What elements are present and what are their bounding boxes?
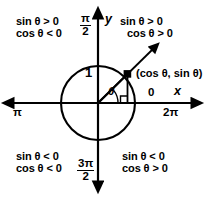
three-pi-over-2-numerator: 3π [77, 158, 94, 171]
quadrant-2-cos: cos θ < 0 [16, 28, 62, 40]
quadrant-4-signs: sin θ < 0 cos θ > 0 [122, 151, 168, 174]
point-marker [124, 70, 132, 78]
pi-over-2-numerator: π [80, 13, 91, 26]
quadrant-1-sin: sin θ > 0 [120, 16, 173, 28]
quadrant-3-signs: sin θ < 0 cos θ < 0 [16, 151, 62, 174]
x-axis-positive-value: 2π [163, 106, 178, 118]
radius-length-label: 1 [85, 66, 92, 80]
quadrant-2-sin: sin θ > 0 [16, 16, 62, 28]
x-axis-label: x [174, 85, 181, 98]
x-axis-origin-value: 0 [148, 86, 154, 98]
three-pi-over-2-denominator: 2 [77, 171, 94, 183]
quadrant-2-signs: sin θ > 0 cos θ < 0 [16, 16, 62, 39]
quadrant-4-sin: sin θ < 0 [122, 151, 168, 163]
quadrant-1-cos: cos θ > 0 [120, 28, 173, 40]
quadrant-3-sin: sin θ < 0 [16, 151, 62, 163]
point-coordinate-label: (cos θ, sin θ) [136, 68, 202, 80]
quadrant-3-cos: cos θ < 0 [16, 163, 62, 175]
y-axis-label: y [105, 13, 112, 26]
x-axis-negative-value: π [13, 106, 22, 118]
pi-over-2-denominator: 2 [80, 26, 91, 38]
quadrant-4-cos: cos θ > 0 [122, 163, 168, 175]
y-axis-negative-value: 3π 2 [77, 158, 94, 182]
theta-arc [114, 91, 118, 103]
angle-theta-label: θ [108, 85, 114, 97]
y-axis-positive-value: π 2 [80, 13, 91, 37]
quadrant-1-signs: sin θ > 0 cos θ > 0 [120, 16, 173, 39]
unit-circle-diagram: sin θ > 0 cos θ < 0 sin θ > 0 cos θ > 0 … [0, 0, 212, 197]
